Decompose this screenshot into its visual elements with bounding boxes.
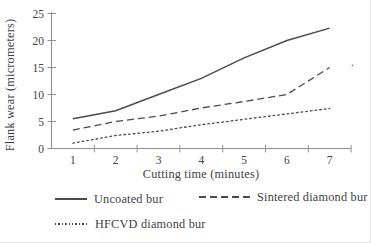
y-axis-title: Flank wear (micrometers) <box>3 10 18 160</box>
legend-label-sintered: Sintered diamond bur <box>257 190 368 205</box>
legend-label-hfcvd: HFCVD diamond bur <box>95 217 206 232</box>
legend-label-uncoated: Uncoated bur <box>94 192 163 207</box>
y-tick-label: 10 <box>33 89 45 101</box>
y-tick-label: 20 <box>33 35 45 47</box>
x-tick-label: 7 <box>327 154 333 166</box>
dotted-line-swatch <box>55 223 88 225</box>
x-tick-label: 1 <box>70 154 76 166</box>
y-tick-label: 25 <box>33 8 45 20</box>
y-tick-label: 0 <box>38 143 44 155</box>
legend-item-uncoated: Uncoated bur <box>55 191 163 207</box>
x-tick-label: 3 <box>156 154 162 166</box>
y-tick-label: 5 <box>38 116 44 128</box>
y-tick-label: 15 <box>33 62 45 74</box>
x-axis-title: Cutting time (minutes) <box>51 167 351 182</box>
x-tick-label: 5 <box>241 154 247 166</box>
solid-line-swatch <box>55 198 87 200</box>
figure: 05101520251234567 Flank wear (micrometer… <box>0 0 371 243</box>
series-line-dotted <box>73 109 330 144</box>
x-tick-label: 4 <box>198 154 204 166</box>
legend-item-hfcvd: HFCVD diamond bur <box>55 216 206 232</box>
x-tick-label: 2 <box>113 154 119 166</box>
stray-mark <box>352 65 354 67</box>
series-line-dashed <box>73 68 330 131</box>
x-tick-label: 6 <box>284 154 290 166</box>
legend-item-sintered: Sintered diamond bur <box>199 189 368 205</box>
dashed-line-swatch <box>199 196 250 198</box>
series-line-solid <box>73 28 330 119</box>
